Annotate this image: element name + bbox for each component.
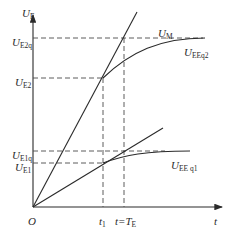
steep-line (33, 12, 137, 207)
tick-te: t=TE (115, 212, 136, 227)
label-ueeq2: UEEq2 (184, 43, 209, 60)
shallow-line (33, 128, 163, 207)
x-axis-label: t (214, 212, 217, 227)
tick-ue1: UE1 (15, 158, 31, 175)
y-axis-label: UE (22, 4, 35, 21)
label-ueeq1: UEE q1 (171, 156, 198, 173)
tick-ue2q: UE2q (12, 33, 32, 50)
tick-ue2: UE2 (15, 73, 31, 90)
voltage-time-diagram (0, 0, 234, 227)
origin-label: O (28, 212, 36, 227)
label-um: UM (158, 24, 173, 41)
tick-t1: t1 (99, 212, 106, 227)
